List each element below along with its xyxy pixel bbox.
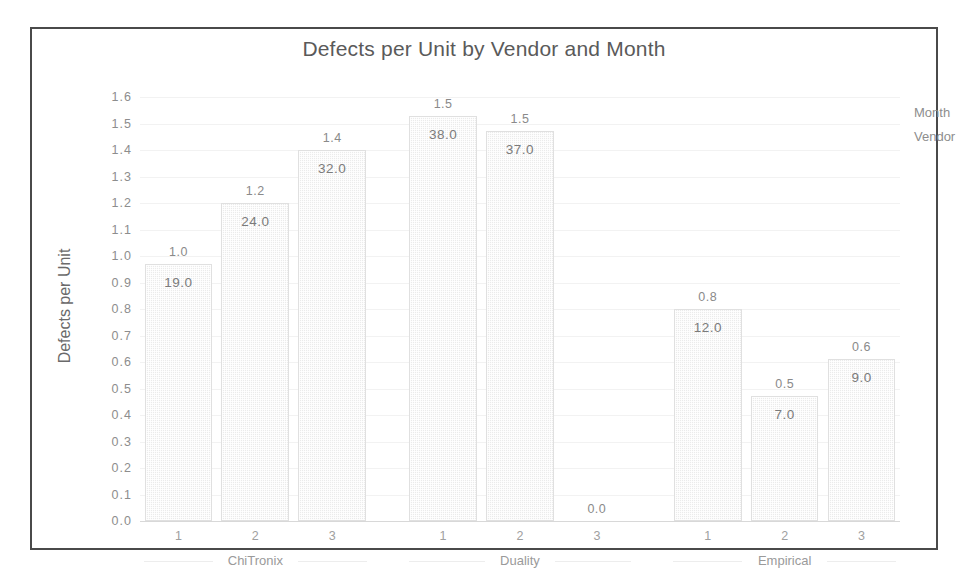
y-axis-tick-label: 0.7 bbox=[112, 329, 132, 343]
bars-layer: 1.019.01.224.01.432.01.538.01.537.00.00.… bbox=[140, 97, 900, 521]
bar-count-label: 38.0 bbox=[405, 127, 482, 142]
bar-value-label: 0.5 bbox=[746, 377, 823, 391]
y-axis-tick-label: 0.8 bbox=[112, 302, 132, 316]
bar[interactable] bbox=[221, 203, 289, 521]
bar-count-label: 32.0 bbox=[294, 161, 371, 176]
bar-count-label: 7.0 bbox=[746, 407, 823, 422]
y-axis-tick-label: 0.5 bbox=[112, 382, 132, 396]
bar[interactable] bbox=[674, 309, 742, 521]
bar-slot: 1.537.0 bbox=[482, 97, 559, 521]
bar-value-label: 1.5 bbox=[405, 97, 482, 111]
bar-count-label: 37.0 bbox=[482, 142, 559, 157]
y-axis-tick-label: 0.1 bbox=[112, 488, 132, 502]
chart-frame: Defects per Unit by Vendor and Month Def… bbox=[30, 27, 938, 550]
y-axis-tick-label: 0.9 bbox=[112, 276, 132, 290]
x-axis-tick-label-month: 1 bbox=[405, 529, 482, 543]
bar[interactable] bbox=[298, 150, 366, 521]
vendor-group-rule bbox=[827, 561, 896, 562]
y-axis-title: Defects per Unit bbox=[56, 196, 74, 416]
bar[interactable] bbox=[409, 116, 477, 521]
y-axis-tick-label: 1.4 bbox=[112, 143, 132, 157]
vendor-group-rule bbox=[673, 561, 742, 562]
bar-slot: 0.57.0 bbox=[746, 97, 823, 521]
x-axis-tick-label-month: 3 bbox=[294, 529, 371, 543]
y-axis-tick-label: 0.2 bbox=[112, 461, 132, 475]
y-axis-tick-label: 1.0 bbox=[112, 249, 132, 263]
x-axis-tick-label-month: 3 bbox=[823, 529, 900, 543]
y-axis-tick-label: 0.4 bbox=[112, 408, 132, 422]
bar-value-label: 1.5 bbox=[482, 112, 559, 126]
bar-slot: 0.69.0 bbox=[823, 97, 900, 521]
bar[interactable] bbox=[486, 131, 554, 521]
bar-slot: 0.0 bbox=[558, 97, 635, 521]
y-axis-tick-label: 0.6 bbox=[112, 355, 132, 369]
bar-value-label: 1.2 bbox=[217, 184, 294, 198]
y-axis-tick-label: 1.1 bbox=[112, 223, 132, 237]
vendor-group-rule bbox=[555, 561, 631, 562]
y-axis-tick-label: 1.6 bbox=[112, 90, 132, 104]
y-axis-tick-label: 0.3 bbox=[112, 435, 132, 449]
bar-slot: 1.224.0 bbox=[217, 97, 294, 521]
y-axis-tick-label: 1.2 bbox=[112, 196, 132, 210]
bar-value-label: 0.8 bbox=[669, 290, 746, 304]
x-axis-tick-label-month: 3 bbox=[558, 529, 635, 543]
plot-area: Defects per Unit 1.61.51.41.31.21.11.00.… bbox=[140, 97, 900, 521]
vendor-group-rule bbox=[144, 561, 213, 562]
bar-count-label: 19.0 bbox=[140, 275, 217, 290]
x-axis-title-month: Month bbox=[914, 105, 950, 120]
vendor-group-rule bbox=[298, 561, 367, 562]
bar-count-label: 12.0 bbox=[669, 320, 746, 335]
y-axis-tick-label: 1.3 bbox=[112, 170, 132, 184]
y-axis-tick-label: 1.5 bbox=[112, 117, 132, 131]
vendor-group-rule bbox=[409, 561, 485, 562]
bar-count-label: 9.0 bbox=[823, 370, 900, 385]
x-axis-tick-label-month: 2 bbox=[746, 529, 823, 543]
bar-value-label: 0.6 bbox=[823, 340, 900, 354]
chart-title: Defects per Unit by Vendor and Month bbox=[32, 37, 936, 61]
bar-slot: 0.812.0 bbox=[669, 97, 746, 521]
bar-value-label: 1.0 bbox=[140, 245, 217, 259]
bar-value-label: 0.0 bbox=[558, 502, 635, 516]
x-axis-tick-label-month: 2 bbox=[217, 529, 294, 543]
bar-count-label: 24.0 bbox=[217, 214, 294, 229]
bar-slot: 1.019.0 bbox=[140, 97, 217, 521]
bar-slot: 1.432.0 bbox=[294, 97, 371, 521]
x-axis-tick-label-month: 1 bbox=[669, 529, 746, 543]
bar[interactable] bbox=[145, 264, 213, 521]
bar-slot: 1.538.0 bbox=[405, 97, 482, 521]
x-axis-title-vendor: Vendor bbox=[914, 129, 955, 144]
x-axis-tick-label-month: 2 bbox=[482, 529, 559, 543]
bar-value-label: 1.4 bbox=[294, 131, 371, 145]
y-axis-tick-label: 0.0 bbox=[112, 514, 132, 528]
x-axis-tick-label-month: 1 bbox=[140, 529, 217, 543]
